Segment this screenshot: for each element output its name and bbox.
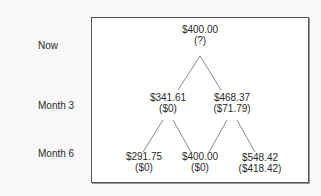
row-label-month-3: Month 3 <box>38 100 74 111</box>
node-value: ($0) <box>133 103 203 114</box>
node-value: ($71.79) <box>197 103 267 114</box>
node-price: $468.37 <box>197 92 267 103</box>
node-month3-down: $341.61 ($0) <box>133 92 203 114</box>
node-price: $548.42 <box>225 152 295 163</box>
node-price: $341.61 <box>133 92 203 103</box>
node-root: $400.00 (?) <box>165 24 235 46</box>
node-value: ($418.42) <box>225 163 295 174</box>
node-value: (?) <box>165 35 235 46</box>
node-price: $400.00 <box>165 24 235 35</box>
node-month6-up-up: $548.42 ($418.42) <box>225 152 295 174</box>
row-label-month-6: Month 6 <box>38 148 74 159</box>
row-label-now: Now <box>38 40 58 51</box>
node-month3-up: $468.37 ($71.79) <box>197 92 267 114</box>
